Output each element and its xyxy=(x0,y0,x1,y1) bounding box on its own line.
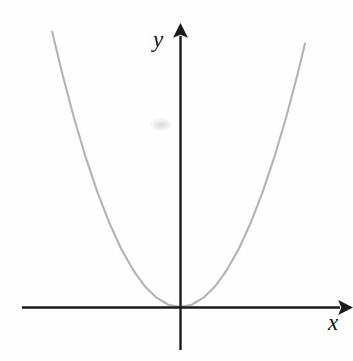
parabola-curve xyxy=(52,32,305,307)
x-axis-label: x xyxy=(328,311,338,334)
graph-canvas xyxy=(0,0,353,361)
parabola-curve-group xyxy=(52,32,305,307)
parabola-figure: y x xyxy=(0,0,353,361)
y-axis-label: y xyxy=(153,28,163,51)
